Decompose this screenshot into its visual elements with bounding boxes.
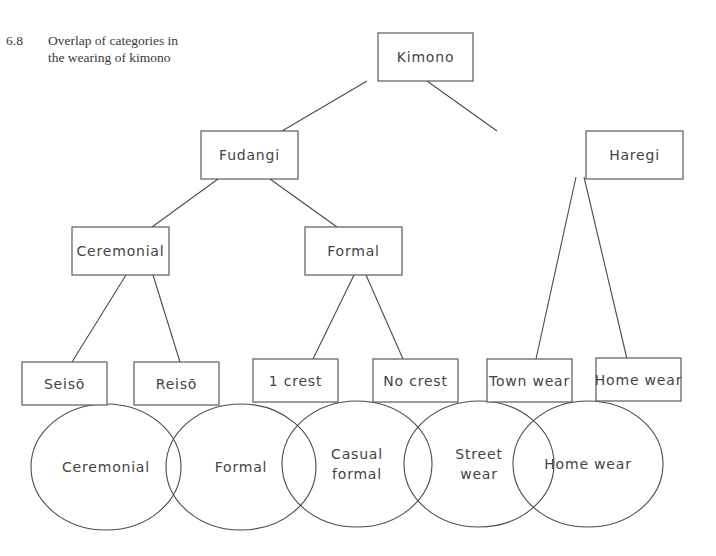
- venn-category: Streetwear: [404, 401, 554, 527]
- node-label: Seisō: [44, 376, 85, 392]
- tree-connectors: [72, 81, 627, 362]
- venn-category: Home wear: [513, 401, 663, 527]
- leaf-node: Town wear: [487, 359, 572, 402]
- level1-node: Fudangi: [201, 131, 298, 179]
- venn-category: Casualformal: [282, 401, 432, 527]
- node-label: Ceremonial: [77, 243, 165, 259]
- venn-label: Ceremonial: [62, 459, 150, 475]
- venn-label: Formal: [215, 459, 268, 475]
- leaf-node: Reisō: [134, 362, 219, 405]
- root-node: Kimono: [378, 33, 473, 81]
- connector-line: [282, 81, 367, 131]
- venn-ellipse: [404, 401, 554, 527]
- level2-node: Ceremonial: [72, 227, 169, 275]
- node-label: Reisō: [156, 376, 197, 392]
- venn-category: Formal: [166, 404, 316, 530]
- node-label: Kimono: [397, 49, 455, 65]
- connector-line: [366, 275, 403, 359]
- venn-label: Home wear: [544, 456, 631, 472]
- tree-nodes: KimonoFudangiHaregiCeremonialFormalSeisō…: [22, 33, 683, 405]
- leaf-node: Home wear: [595, 358, 682, 401]
- connector-line: [270, 179, 337, 227]
- node-label: Fudangi: [219, 147, 280, 163]
- node-label: Home wear: [595, 372, 682, 388]
- leaf-node: 1 crest: [253, 359, 338, 402]
- node-label: Haregi: [609, 147, 660, 163]
- node-label: Formal: [327, 243, 380, 259]
- kimono-category-diagram: CeremonialFormalCasualformalStreetwearHo…: [0, 0, 716, 556]
- connector-line: [72, 275, 126, 362]
- connector-line: [584, 177, 627, 359]
- venn-ellipse: [282, 401, 432, 527]
- venn-label-line1: Casual: [331, 446, 383, 462]
- venn-ellipses: CeremonialFormalCasualformalStreetwearHo…: [31, 401, 663, 530]
- connector-line: [313, 275, 354, 359]
- connector-line: [536, 177, 576, 359]
- venn-category: Ceremonial: [31, 404, 181, 530]
- connector-line: [427, 81, 497, 131]
- node-label: 1 crest: [269, 373, 323, 389]
- connector-line: [152, 179, 218, 227]
- leaf-node: No crest: [373, 359, 458, 402]
- node-label: Town wear: [488, 373, 570, 389]
- venn-label-line1: Street: [455, 446, 502, 462]
- level1-node: Haregi: [586, 131, 683, 179]
- level2-node: Formal: [305, 227, 402, 275]
- venn-label-line2: wear: [460, 466, 498, 482]
- venn-label-line2: formal: [332, 466, 382, 482]
- node-label: No crest: [383, 373, 447, 389]
- connector-line: [153, 275, 180, 362]
- leaf-node: Seisō: [22, 362, 107, 405]
